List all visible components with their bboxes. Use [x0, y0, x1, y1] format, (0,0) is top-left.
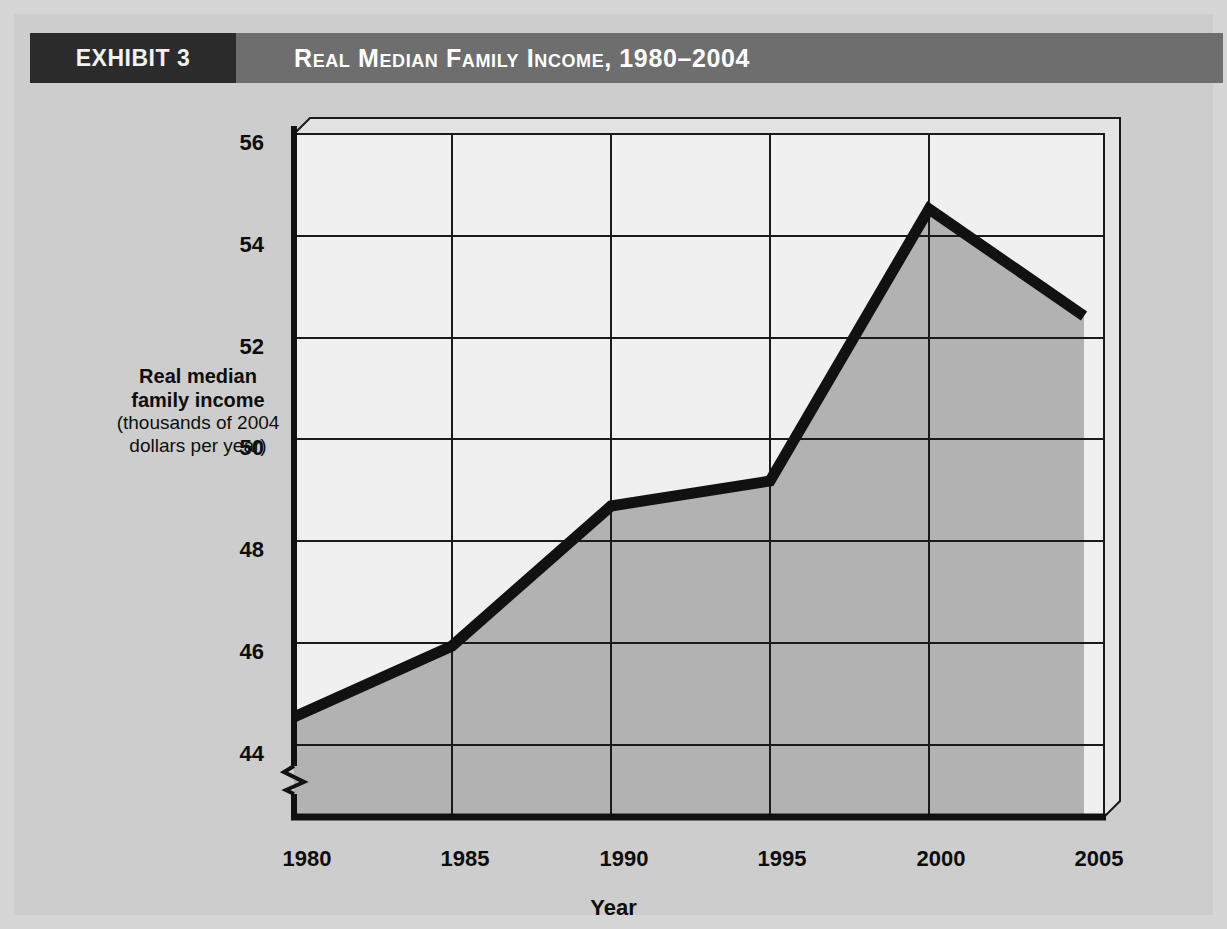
exhibit-board: EXHIBIT 3 Real Median Family Income, 198… [14, 14, 1213, 915]
exhibit-number-label: EXHIBIT 3 [76, 45, 190, 72]
exhibit-number-tab: EXHIBIT 3 [30, 33, 236, 83]
exhibit-title: Real Median Family Income, 1980–2004 [294, 33, 750, 83]
chart-plot-svg [14, 94, 1213, 915]
exhibit-page: EXHIBIT 3 Real Median Family Income, 198… [0, 0, 1227, 929]
chart-container: Real median family income (thousands of … [14, 94, 1213, 915]
